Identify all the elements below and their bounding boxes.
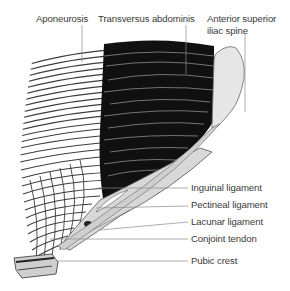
label-asis-line2: iliac spine	[207, 25, 248, 36]
anatomy-figure: Aponeurosis Transversus abdominis Anteri…	[0, 0, 290, 291]
anatomy-illustration	[0, 0, 290, 291]
label-transversus-abdominis: Transversus abdominis	[98, 13, 195, 24]
label-lacunar-ligament: Lacunar ligament	[191, 216, 263, 227]
pubic-crest	[14, 254, 58, 278]
label-conjoint-tendon: Conjoint tendon	[191, 233, 257, 244]
label-asis-line1: Anterior superior	[207, 13, 276, 24]
label-pectineal-ligament: Pectineal ligament	[191, 199, 268, 210]
label-aponeurosis: Aponeurosis	[36, 13, 88, 24]
label-inguinal-ligament: Inguinal ligament	[191, 182, 262, 193]
label-pubic-crest: Pubic crest	[191, 255, 237, 266]
asis-bone	[212, 47, 244, 128]
